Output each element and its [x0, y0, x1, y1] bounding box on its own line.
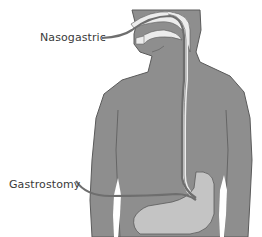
nasogastric-label: Nasogastric: [40, 31, 106, 44]
feeding-tube-diagram: Nasogastric Gastrostomy: [0, 0, 262, 237]
gastrostomy-label: Gastrostomy: [9, 178, 80, 191]
